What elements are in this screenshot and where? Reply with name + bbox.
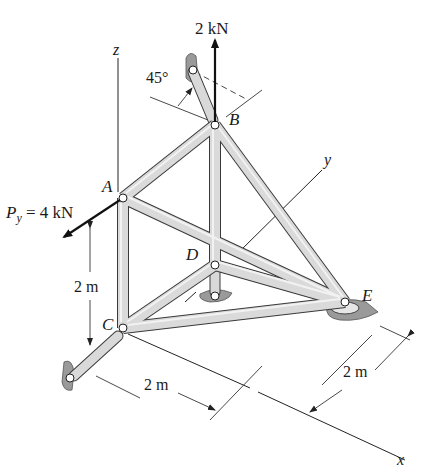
members-fill bbox=[123, 125, 345, 328]
dim-label-length: 2 m bbox=[144, 377, 168, 393]
joint-label-E: E bbox=[362, 287, 372, 304]
pin-top bbox=[189, 66, 197, 74]
pin-C-support bbox=[66, 374, 74, 382]
y-axis-label: y bbox=[324, 152, 331, 168]
joint-E bbox=[341, 298, 349, 306]
angle-label-45: 45° bbox=[146, 70, 168, 86]
joint-label-C: C bbox=[102, 316, 113, 333]
joint-label-A: A bbox=[102, 178, 112, 195]
dim-label-width: 2 m bbox=[343, 364, 367, 380]
x-axis-label: x bbox=[397, 452, 404, 468]
joint-D bbox=[211, 261, 219, 269]
py-value: = 4 kN bbox=[22, 203, 74, 222]
joint-B bbox=[211, 121, 219, 129]
x-axis-line-2 bbox=[258, 392, 405, 460]
load-label-Py: Py = 4 kN bbox=[6, 204, 73, 224]
truss-figure: z y x A B C D E 2 kN Py = 4 kN 45° 2 m 2… bbox=[0, 0, 425, 472]
joint-label-D: D bbox=[186, 246, 198, 263]
pin-D-support bbox=[211, 292, 219, 300]
z-axis-label: z bbox=[113, 42, 119, 58]
py-symbol: P bbox=[6, 203, 16, 222]
dim-label-height: 2 m bbox=[74, 279, 98, 295]
joint-C bbox=[119, 324, 127, 332]
truss-drawing bbox=[0, 0, 425, 472]
member-AB bbox=[123, 125, 215, 198]
joint-label-B: B bbox=[229, 111, 239, 128]
load-label-2kN: 2 kN bbox=[195, 20, 229, 37]
y-axis-lower bbox=[185, 292, 196, 302]
